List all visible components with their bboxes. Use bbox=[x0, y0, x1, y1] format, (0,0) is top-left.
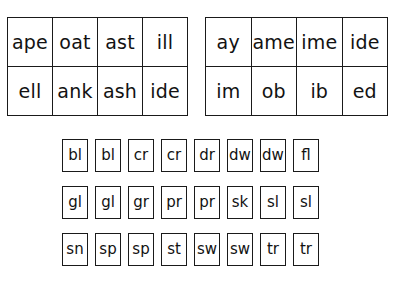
blend-card[interactable]: sl bbox=[293, 186, 319, 219]
blend-card[interactable]: pr bbox=[194, 186, 220, 219]
blend-card[interactable]: dw bbox=[227, 139, 253, 172]
blend-card[interactable]: dw bbox=[260, 139, 286, 172]
blend-card[interactable]: dr bbox=[194, 139, 220, 172]
blend-card[interactable]: sp bbox=[128, 233, 154, 266]
rime-cell[interactable]: ide bbox=[342, 18, 388, 67]
rime-cell[interactable]: ob bbox=[251, 67, 297, 116]
rime-cell[interactable]: ell bbox=[8, 67, 53, 116]
blend-row: bl bl cr cr dr dw dw fl bbox=[62, 139, 324, 172]
rime-cell[interactable]: oat bbox=[53, 18, 98, 67]
blend-row: gl gl gr pr pr sk sl sl bbox=[62, 186, 324, 219]
rime-cell[interactable]: ill bbox=[143, 18, 188, 67]
rime-cell[interactable]: im bbox=[206, 67, 252, 116]
blend-card[interactable]: gl bbox=[95, 186, 121, 219]
consonant-blend-grid: bl bl cr cr dr dw dw fl gl gl gr pr pr s… bbox=[62, 139, 324, 266]
table-row: ape oat ast ill bbox=[8, 18, 188, 67]
rime-cell[interactable]: ib bbox=[297, 67, 343, 116]
blend-row: sn sp sp st sw sw tr tr bbox=[62, 233, 324, 266]
rime-table-right: ay ame ime ide im ob ib ed bbox=[205, 17, 388, 116]
table-row: ell ank ash ide bbox=[8, 67, 188, 116]
rime-cell[interactable]: ay bbox=[206, 18, 252, 67]
blend-card[interactable]: gl bbox=[62, 186, 88, 219]
blend-card[interactable]: tr bbox=[260, 233, 286, 266]
blend-card[interactable]: sw bbox=[227, 233, 253, 266]
blend-card[interactable]: st bbox=[161, 233, 187, 266]
table-row: ay ame ime ide bbox=[206, 18, 388, 67]
rime-cell[interactable]: ime bbox=[297, 18, 343, 67]
rime-cell[interactable]: ape bbox=[8, 18, 53, 67]
blend-card[interactable]: pr bbox=[161, 186, 187, 219]
blend-card[interactable]: sk bbox=[227, 186, 253, 219]
blend-card[interactable]: tr bbox=[293, 233, 319, 266]
blend-card[interactable]: bl bbox=[95, 139, 121, 172]
rime-cell[interactable]: ide bbox=[143, 67, 188, 116]
blend-card[interactable]: sp bbox=[95, 233, 121, 266]
blend-card[interactable]: fl bbox=[293, 139, 319, 172]
blend-card[interactable]: gr bbox=[128, 186, 154, 219]
blend-card[interactable]: sn bbox=[62, 233, 88, 266]
rime-cell[interactable]: ank bbox=[53, 67, 98, 116]
table-row: im ob ib ed bbox=[206, 67, 388, 116]
blend-card[interactable]: bl bbox=[62, 139, 88, 172]
blend-card[interactable]: sw bbox=[194, 233, 220, 266]
blend-card[interactable]: cr bbox=[128, 139, 154, 172]
blend-card[interactable]: cr bbox=[161, 139, 187, 172]
worksheet-sheet: ape oat ast ill ell ank ash ide ay ame i… bbox=[0, 0, 400, 285]
rime-cell[interactable]: ed bbox=[342, 67, 388, 116]
rime-cell[interactable]: ash bbox=[98, 67, 143, 116]
rime-cell[interactable]: ast bbox=[98, 18, 143, 67]
rime-cell[interactable]: ame bbox=[251, 18, 297, 67]
blend-card[interactable]: sl bbox=[260, 186, 286, 219]
rime-table-left: ape oat ast ill ell ank ash ide bbox=[7, 17, 188, 116]
